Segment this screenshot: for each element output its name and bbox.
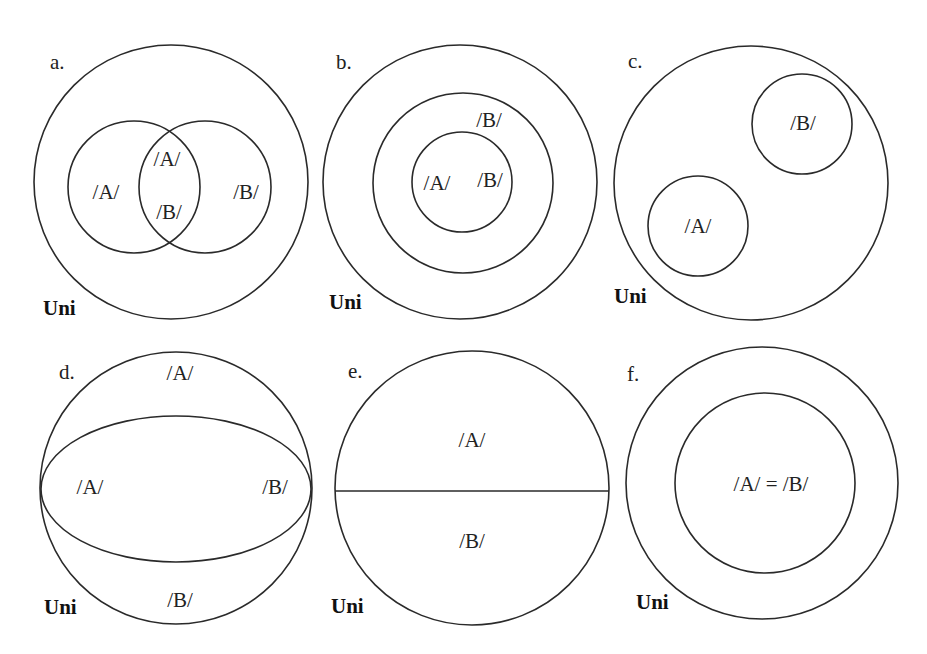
universe-label: Uni <box>331 594 364 618</box>
set-b-inner-label: /B/ <box>477 168 503 192</box>
panel-letter: c. <box>628 49 643 73</box>
panel-letter: d. <box>59 360 75 384</box>
set-b-bottom-label: /B/ <box>167 588 193 612</box>
set-b-label: /B/ <box>459 529 485 553</box>
panel-letter: b. <box>336 50 352 74</box>
panel-d: d. /A/ /A/ /B/ /B/ Uni <box>40 352 312 624</box>
set-a-top-label: /A/ <box>167 361 194 385</box>
panel-a: a. /A/ /A/ /B/ /B/ Uni <box>34 45 308 320</box>
set-a-label: /A/ <box>424 171 451 195</box>
set-b-outer-label: /B/ <box>476 108 502 132</box>
set-a-label: /A/ <box>685 214 712 238</box>
panel-b: b. /B/ /A/ /B/ Uni <box>323 45 597 319</box>
universe-circle <box>614 46 888 320</box>
panel-e: e. /A/ /B/ Uni <box>331 351 609 625</box>
set-relations-figure: a. /A/ /A/ /B/ /B/ Uni b. /B/ /A/ /B/ Un… <box>0 0 927 654</box>
universe-circle <box>335 351 609 625</box>
set-b-label: /B/ <box>790 111 816 135</box>
set-a-label: /A/ <box>93 180 120 204</box>
panel-c: c. /B/ /A/ Uni <box>614 46 888 320</box>
set-a-left-label: /A/ <box>77 475 104 499</box>
set-b-right-label: /B/ <box>262 475 288 499</box>
set-a-label: /A/ <box>459 428 486 452</box>
universe-label: Uni <box>329 290 362 314</box>
universe-label: Uni <box>43 296 76 320</box>
identity-label: /A/ = /B/ <box>734 472 809 496</box>
set-a-circle <box>68 121 200 253</box>
panel-letter: a. <box>50 50 65 74</box>
universe-circle <box>34 45 308 319</box>
universe-label: Uni <box>614 284 647 308</box>
universe-circle <box>323 45 597 319</box>
set-b-circle <box>373 93 553 273</box>
panel-letter: e. <box>348 359 363 383</box>
universe-label: Uni <box>44 595 77 619</box>
panel-letter: f. <box>627 362 639 386</box>
intersection-b-label: /B/ <box>156 200 182 224</box>
universe-label: Uni <box>636 590 669 614</box>
intersection-a-label: /A/ <box>154 147 181 171</box>
panel-f: f. /A/ = /B/ Uni <box>626 347 898 619</box>
set-b-label: /B/ <box>233 180 259 204</box>
